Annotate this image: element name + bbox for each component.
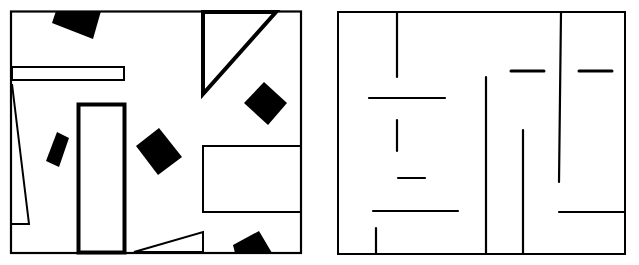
wall-wedge [134, 232, 203, 252]
wall-box [203, 146, 301, 212]
wall-pillar [79, 105, 125, 253]
obstacle-square [244, 82, 287, 125]
obstacle-square [136, 128, 182, 175]
right-panel-border [338, 12, 625, 254]
figure [0, 0, 639, 265]
wall-sliver [12, 84, 29, 224]
right-panel [338, 12, 625, 254]
left-panel [11, 11, 301, 253]
wall-bar [12, 67, 124, 80]
obstacle-square [233, 231, 272, 253]
maze-wall [559, 12, 561, 182]
wall-triangle [203, 12, 276, 94]
obstacle-square [46, 132, 69, 167]
obstacle-square [52, 11, 101, 39]
